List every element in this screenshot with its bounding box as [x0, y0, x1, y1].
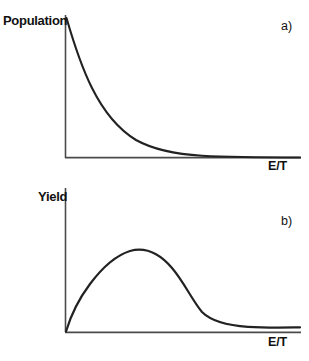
- figure-container: Population a) E/T Yield b) E/T: [0, 0, 309, 361]
- panel-b-yield-curve: [66, 250, 300, 332]
- panel-b-y-axis-label: Yield: [38, 190, 67, 203]
- panel-b-x-axis-label: E/T: [268, 336, 287, 349]
- panel-a-tag: a): [281, 20, 292, 33]
- panel-b-tag: b): [281, 215, 292, 228]
- panel-a: [65, 15, 301, 158]
- panel-a-population-curve: [67, 18, 301, 158]
- panel-a-y-axis-label: Population: [3, 14, 67, 27]
- panel-b: [65, 188, 301, 332]
- figure-svg: [0, 0, 309, 361]
- panel-a-x-axis-label: E/T: [268, 160, 287, 173]
